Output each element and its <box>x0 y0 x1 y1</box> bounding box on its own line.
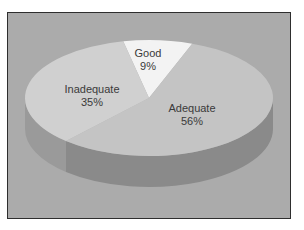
slice-label-adequate: Adequate <box>168 102 215 114</box>
slice-label-good: Good <box>135 47 162 59</box>
pie-chart: Good9%Adequate56%Inadequate35% <box>0 0 304 230</box>
slice-label-inadequate: Inadequate <box>64 83 119 95</box>
slice-value-adequate: 56% <box>181 115 203 127</box>
slice-value-inadequate: 35% <box>81 96 103 108</box>
slice-value-good: 9% <box>140 60 156 72</box>
